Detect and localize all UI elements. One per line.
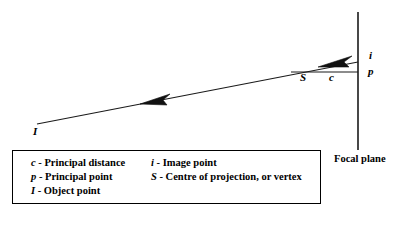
- projection-ray-line: [37, 62, 358, 124]
- label-principal-distance: c: [329, 72, 334, 83]
- legend-entry-dash: -: [35, 185, 44, 196]
- legend-entry: p - Principal point: [31, 170, 125, 184]
- diagram-canvas: I S c i p Focal plane c - Principal dist…: [0, 0, 407, 225]
- legend-entry-description: Object point: [44, 185, 100, 196]
- label-object-point: I: [33, 126, 37, 137]
- legend-entry-description: Principal distance: [44, 157, 125, 168]
- label-image-point: i: [369, 50, 372, 61]
- label-principal-point: p: [368, 66, 374, 77]
- legend-entry: i - Image point: [151, 156, 302, 170]
- legend-entry: S - Centre of projection, or vertex: [151, 170, 302, 184]
- legend-entry-dash: -: [157, 171, 166, 182]
- legend-entry-description: Image point: [163, 157, 217, 168]
- legend-entry-dash: -: [154, 157, 163, 168]
- legend-entry: I - Object point: [31, 184, 125, 198]
- legend-entry: c - Principal distance: [31, 156, 125, 170]
- legend-entry-description: Principal point: [45, 171, 112, 182]
- legend-column-left: c - Principal distancep - Principal poin…: [31, 156, 125, 198]
- legend-entry-description: Centre of projection, or vertex: [166, 171, 302, 182]
- legend-entry-dash: -: [36, 171, 45, 182]
- legend-column-right: i - Image pointS - Centre of projection,…: [151, 156, 302, 184]
- legend-box: c - Principal distancep - Principal poin…: [12, 150, 321, 204]
- ray-arrowhead-near-focal-plane: [318, 56, 352, 67]
- focal-plane-label: Focal plane: [334, 154, 386, 165]
- label-centre-of-projection: S: [300, 72, 306, 83]
